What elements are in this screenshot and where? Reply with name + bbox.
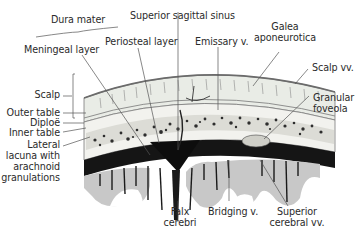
label-falx-line2: cerebri bbox=[160, 217, 200, 228]
label-granular-foveola: Granular foveola bbox=[313, 92, 354, 114]
label-falx-cerebri: Falx cerebri bbox=[160, 206, 200, 228]
label-periosteal-layer: Periosteal layer bbox=[105, 36, 178, 47]
label-superior-sagittal-sinus: Superior sagittal sinus bbox=[130, 10, 235, 21]
label-falx-line1: Falx bbox=[160, 206, 200, 217]
label-lateral-line3: arachnoid bbox=[0, 161, 60, 172]
label-lateral-line2: lacuna with bbox=[0, 150, 60, 161]
label-superior-cerebral-vv: Superior cerebral vv. bbox=[266, 206, 328, 228]
label-galea-line1: Galea bbox=[253, 21, 317, 32]
label-galea-aponeurotica: Galea aponeurotica bbox=[253, 21, 317, 43]
label-galea-line2: aponeurotica bbox=[253, 32, 317, 43]
anatomical-figure: Dura mater Superior sagittal sinus Menin… bbox=[0, 0, 360, 241]
label-sup-cerebral-line1: Superior bbox=[266, 206, 328, 217]
label-lateral-line1: Lateral bbox=[0, 139, 60, 150]
label-granular-line2: foveola bbox=[313, 103, 354, 114]
label-dura-mater: Dura mater bbox=[51, 14, 105, 25]
label-emissary-v: Emissary v. bbox=[195, 36, 249, 47]
label-meningeal-layer: Meningeal layer bbox=[24, 44, 99, 55]
label-scalp-vv: Scalp vv. bbox=[312, 62, 354, 73]
label-sup-cerebral-line2: cerebral vv. bbox=[266, 217, 328, 228]
label-bridging-v: Bridging v. bbox=[208, 206, 258, 217]
label-granular-line1: Granular bbox=[313, 92, 354, 103]
label-inner-table: Inner table bbox=[0, 127, 60, 138]
label-lateral-line4: granulations bbox=[0, 172, 60, 183]
label-scalp: Scalp bbox=[20, 89, 60, 100]
label-lateral-lacuna: Lateral lacuna with arachnoid granulatio… bbox=[0, 139, 60, 183]
